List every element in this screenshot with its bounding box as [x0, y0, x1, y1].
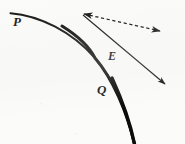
- dashed-double-arrow: [84, 14, 160, 31]
- figure-canvas: [0, 0, 185, 144]
- label-q: Q: [97, 83, 106, 96]
- figure-container: P E Q: [0, 0, 185, 144]
- label-p: P: [13, 15, 21, 28]
- solid-ray-arrow: [83, 15, 165, 84]
- label-e: E: [108, 50, 116, 62]
